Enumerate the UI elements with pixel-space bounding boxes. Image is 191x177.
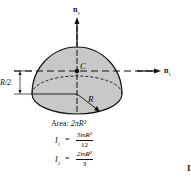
i1-fraction: 5mR² 12 xyxy=(76,132,93,149)
n1-axis-label: n1 xyxy=(164,67,171,77)
i2-equals: = xyxy=(65,155,70,163)
i1-equals: = xyxy=(65,136,70,144)
i2-label: I2 xyxy=(55,156,60,166)
i1-denominator: 12 xyxy=(81,141,88,149)
n1-arrowhead-icon xyxy=(154,69,161,74)
hemisphere-diagram xyxy=(0,0,191,177)
i2-numerator: 2mR² xyxy=(76,151,93,160)
i1-numerator: 5mR² xyxy=(76,132,93,141)
dim-arrow-up-icon xyxy=(19,71,22,75)
centroid-label: C xyxy=(80,62,86,71)
n2-axis-label: n2 xyxy=(73,6,80,16)
i2-denominator: 3 xyxy=(83,160,87,168)
n2-arrowhead-icon xyxy=(75,17,80,24)
edge-text-fragment: I xyxy=(187,164,191,173)
radius-label: R xyxy=(88,95,94,104)
i2-fraction: 2mR² 3 xyxy=(76,151,93,168)
dim-arrow-down-icon xyxy=(19,90,22,94)
area-formula: Area: 2πR² xyxy=(51,120,86,128)
centroid-dot xyxy=(75,69,79,73)
i1-label: I1 xyxy=(55,137,60,147)
height-dimension-label: R/2 xyxy=(0,79,11,87)
